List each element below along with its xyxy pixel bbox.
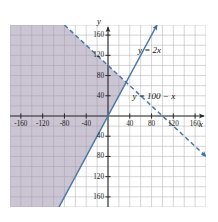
x-axis-label: x xyxy=(199,119,203,129)
line-label-y-equals-2x: y = 2x xyxy=(138,45,161,55)
y-tick-label: 80 xyxy=(97,152,104,160)
x-tick-label: -40 xyxy=(81,120,91,128)
x-tick-label: -120 xyxy=(36,120,49,128)
y-tick-label: 80 xyxy=(97,72,104,80)
y-tick-label: 160 xyxy=(93,31,104,39)
x-tick-label: 80 xyxy=(148,120,155,128)
x-tick-label: 120 xyxy=(168,120,179,128)
y-tick-label: 160 xyxy=(93,193,104,201)
x-tick-label: -80 xyxy=(60,120,70,128)
plot-area: -160-120-80-4040801201601601208040408012… xyxy=(10,25,206,207)
y-tick-label: 120 xyxy=(93,51,104,59)
graph-figure: -160-120-80-4040801201601601208040408012… xyxy=(0,0,218,222)
line-label-y-equals-100-minus-x: y = 100 − x xyxy=(133,91,176,101)
y-tick-label: 40 xyxy=(97,132,104,140)
y-tick-label: 40 xyxy=(97,92,104,100)
y-tick-label: 120 xyxy=(93,173,104,181)
x-tick-label: 40 xyxy=(126,120,133,128)
y-axis-label: y xyxy=(97,16,101,26)
x-tick-label: -160 xyxy=(14,120,27,128)
plot-lines xyxy=(10,25,206,207)
